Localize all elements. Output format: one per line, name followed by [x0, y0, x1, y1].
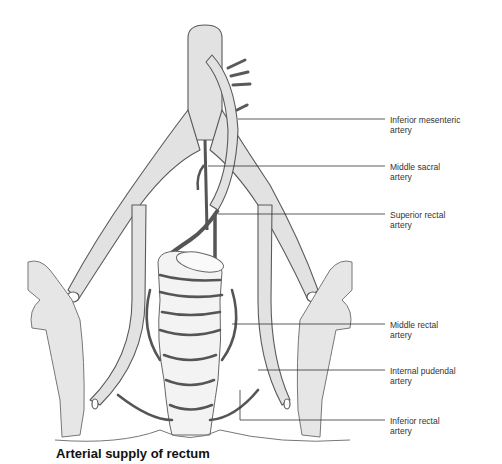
anatomical-diagram: Inferior mesenteric artery Middle sacral… — [0, 0, 502, 464]
label-inferior-rectal-artery: Inferior rectal artery — [390, 416, 440, 436]
figure-caption: Arterial supply of rectum — [56, 446, 210, 464]
aorta — [188, 25, 222, 140]
artery-illustration — [0, 0, 502, 464]
label-inferior-mesenteric-artery: Inferior mesenteric artery — [390, 115, 460, 135]
label-middle-sacral-artery: Middle sacral artery — [390, 162, 440, 182]
middle-sacral — [205, 140, 207, 230]
label-internal-pudendal-artery: Internal pudendal artery — [390, 366, 456, 386]
label-middle-rectal-artery: Middle rectal artery — [390, 320, 438, 340]
label-superior-rectal-artery: Superior rectal artery — [390, 210, 445, 230]
superior-rectal — [165, 210, 218, 258]
